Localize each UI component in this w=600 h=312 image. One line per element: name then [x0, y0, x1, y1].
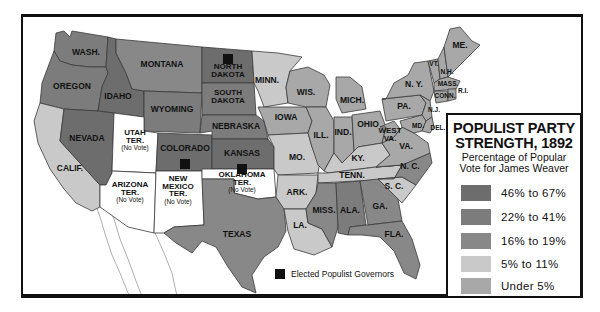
governor-key-label: Elected Populist Governors	[291, 269, 394, 279]
region-label-ohio: OHIO	[357, 119, 379, 129]
region-label-tenn: TENN.	[339, 170, 365, 180]
legend-label: 46% to 67%	[501, 187, 566, 199]
region-label-ky: KY.	[351, 153, 364, 163]
legend: POPULIST PARTY STRENGTH, 1892 Percentage…	[446, 113, 582, 298]
region-label-idaho: IDAHO	[104, 91, 132, 101]
region-label-ny: N. Y.	[405, 79, 423, 89]
region-label-mo: MO.	[289, 152, 305, 162]
region-label-oregon: OREGON	[53, 81, 91, 91]
region-label-pa: PA.	[397, 101, 411, 111]
region-label-nebraska: NEBRASKA	[212, 121, 260, 131]
legend-swatch	[461, 233, 491, 249]
region-label-la: LA.	[293, 220, 307, 230]
region-label-fla: FLA.	[385, 229, 404, 239]
legend-subtitle: Percentage of Popular Vote for James Wea…	[448, 152, 580, 174]
legend-title-line1: POPULIST PARTY	[448, 121, 580, 136]
region-label-me: ME.	[452, 40, 467, 50]
governor-marker-ndakota	[223, 54, 233, 64]
governor-marker-kansas	[237, 164, 247, 174]
governor-key: Elected Populist Governors	[275, 269, 394, 279]
region-label-texas: TEXAS	[223, 229, 252, 239]
legend-label: 22% to 41%	[501, 211, 566, 223]
governor-marker-colorado	[180, 159, 190, 169]
region-label-ala: ALA.	[340, 205, 360, 215]
region-label-va: VA.	[399, 141, 413, 151]
region-label-nj: N.J.	[428, 106, 440, 113]
governor-key-swatch	[275, 269, 285, 279]
legend-swatch	[461, 256, 491, 272]
region-label-sdakota: SOUTHDAKOTA	[211, 88, 245, 105]
region-label-wis: WIS.	[297, 87, 315, 97]
region-label-nh: N.H.	[441, 68, 454, 75]
region-label-colorado: COLORADO	[160, 143, 210, 153]
legend-subtitle-line2: Vote for James Weaver	[448, 163, 580, 174]
region-label-ark: ARK.	[287, 187, 308, 197]
legend-item-16-19: 16% to 19%	[461, 233, 566, 249]
region-label-vt: VT.	[429, 60, 439, 67]
legend-item-under-5: Under 5%	[461, 278, 555, 294]
region-label-iowa: IOWA	[275, 112, 298, 122]
region-label-kansas: KANSAS	[224, 148, 260, 158]
region-label-wyoming: WYOMING	[151, 104, 194, 114]
region-label-montana: MONTANA	[141, 59, 184, 69]
legend-label: 5% to 11%	[501, 258, 558, 270]
region-label-ga: GA.	[372, 201, 387, 211]
region-label-del: DEL.	[431, 124, 446, 131]
region-label-wash: WASH.	[72, 47, 100, 57]
region-label-ill: ILL.	[313, 130, 328, 140]
legend-swatch	[461, 185, 491, 201]
region-label-calif: CALIF.	[57, 163, 83, 173]
legend-label: Under 5%	[501, 280, 555, 292]
region-label-ri: R.I.	[458, 87, 468, 94]
region-label-minn: MINN.	[255, 75, 279, 85]
region-label-mich: MICH.	[340, 95, 364, 105]
legend-label: 16% to 19%	[501, 235, 566, 247]
legend-title-line2: STRENGTH, 1892	[448, 136, 580, 151]
region-label-conn: CONN.	[435, 92, 456, 99]
legend-swatch	[461, 278, 491, 294]
legend-item-46-67: 46% to 67%	[461, 185, 566, 201]
region-label-sc: S. C.	[385, 181, 404, 191]
legend-swatch	[461, 209, 491, 225]
region-label-nc: N. C.	[400, 161, 419, 171]
region-label-mass: MASS.	[438, 80, 459, 87]
legend-item-5-11: 5% to 11%	[461, 256, 558, 272]
region-label-ind: IND.	[335, 127, 352, 137]
region-label-miss: MISS.	[312, 205, 335, 215]
region-label-ndakota: NORTHDAKOTA	[211, 62, 245, 79]
region-label-md: MD.	[412, 122, 424, 129]
region-label-nevada: NEVADA	[69, 133, 104, 143]
legend-title: POPULIST PARTY STRENGTH, 1892	[448, 121, 580, 151]
legend-item-22-41: 22% to 41%	[461, 209, 566, 225]
